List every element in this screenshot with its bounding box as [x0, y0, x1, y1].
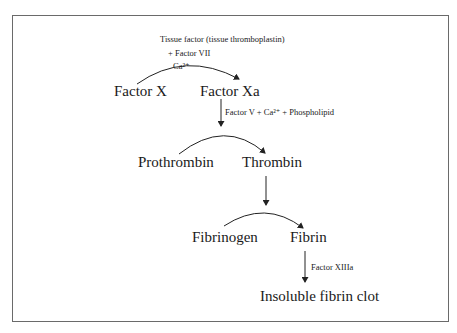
node-prothrombin: Prothrombin: [138, 154, 214, 171]
node-factor-x: Factor X: [114, 83, 167, 100]
node-fibrinogen: Fibrinogen: [192, 229, 258, 246]
label-tissue-factor: Tissue factor (tissue thromboplastin): [160, 34, 285, 44]
node-fibrin: Fibrin: [290, 229, 327, 246]
label-factor-v: Factor V + Ca²⁺ + Phospholipid: [225, 107, 334, 117]
label-factor-vii: + Factor VII: [168, 48, 210, 58]
node-factor-xa: Factor Xa: [200, 83, 260, 100]
arrow-prothrombin-to-thrombin: [179, 136, 265, 154]
arrows-layer: [0, 0, 457, 333]
label-factor-xiiia: Factor XIIIa: [311, 262, 353, 272]
node-insoluble-fibrin-clot: Insoluble fibrin clot: [260, 288, 379, 305]
label-ca: Ca²⁺: [173, 61, 189, 71]
node-thrombin: Thrombin: [242, 154, 302, 171]
arrow-fibrinogen-to-fibrin: [224, 213, 303, 228]
